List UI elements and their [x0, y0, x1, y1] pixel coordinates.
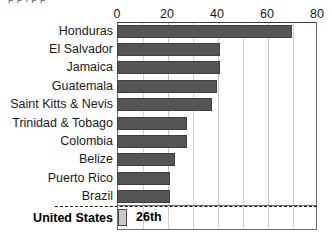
gridline — [193, 207, 194, 229]
category-label: El Salvador — [0, 42, 113, 56]
highlight-rank-annotation: 26th — [136, 210, 162, 225]
bar — [117, 25, 292, 38]
gridline — [218, 207, 219, 229]
bar — [117, 61, 220, 74]
bar — [117, 117, 187, 130]
bar — [117, 80, 217, 93]
category-label: Jamaica — [0, 60, 113, 74]
bar-series — [117, 22, 317, 206]
x-tick-label: 40 — [210, 7, 224, 21]
category-label: Puerto Rico — [0, 171, 113, 185]
x-tick-label: 80 — [310, 7, 324, 21]
bar-row — [117, 170, 317, 188]
bar-row — [117, 41, 317, 59]
gridline — [243, 207, 244, 229]
category-label: Trinidad & Tobago — [0, 116, 113, 130]
bar-row — [117, 188, 317, 206]
bar-row — [117, 59, 317, 77]
category-label: Guatemala — [0, 79, 113, 93]
category-label: Saint Kitts & Nevis — [0, 97, 113, 111]
highlight-label: United States — [33, 211, 113, 226]
bar-row — [117, 115, 317, 133]
bar-row — [117, 23, 317, 41]
category-label: Honduras — [0, 24, 113, 38]
bar-row — [117, 133, 317, 151]
category-label: Brazil — [0, 189, 113, 203]
x-tick-label: 0 — [114, 7, 121, 21]
highlight-row: United States 26th — [0, 207, 332, 231]
gridline — [168, 207, 169, 229]
bar-row — [117, 96, 317, 114]
bar — [117, 43, 220, 56]
gridline — [293, 207, 294, 229]
bar — [117, 135, 187, 148]
category-label: Belize — [0, 152, 113, 166]
bar-chart: p p , p p 020406080 HondurasEl SalvadorJ… — [0, 0, 332, 234]
x-tick-label: 20 — [160, 7, 174, 21]
bar — [117, 98, 212, 111]
bar-row — [117, 78, 317, 96]
category-label: Colombia — [0, 134, 113, 148]
bar — [117, 172, 170, 185]
x-tick-label: 60 — [260, 7, 274, 21]
clipped-title-remnant: p p , p p — [8, 0, 328, 3]
bar — [117, 190, 170, 203]
gridline — [268, 207, 269, 229]
highlight-bar — [118, 209, 127, 226]
bar — [117, 153, 175, 166]
highlight-plot-area: 26th — [117, 207, 317, 230]
x-axis-tick-labels: 020406080 — [0, 7, 332, 22]
category-axis-labels: HondurasEl SalvadorJamaicaGuatemalaSaint… — [0, 22, 113, 206]
bar-row — [117, 151, 317, 169]
